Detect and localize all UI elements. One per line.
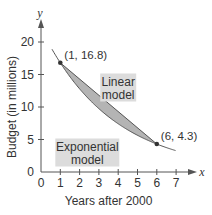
model-label-text: Linear xyxy=(102,75,135,89)
y-tick-label: 20 xyxy=(21,35,35,49)
x-axis-title: Years after 2000 xyxy=(65,194,153,208)
point-label: (1, 16.8) xyxy=(64,49,107,61)
x-tick-label: 1 xyxy=(57,176,64,190)
y-tick-label: 0 xyxy=(27,165,34,179)
y-axis-title: Budget (in millions) xyxy=(5,56,19,158)
point-label: (6, 4.3) xyxy=(161,130,198,142)
x-tick-label: 7 xyxy=(173,176,180,190)
y-tick-label: 10 xyxy=(21,100,35,114)
x-tick-label: 3 xyxy=(96,176,103,190)
model-label-text: model xyxy=(102,88,135,102)
x-tick-label: 4 xyxy=(115,176,122,190)
x-axis-arrow-icon xyxy=(188,169,197,175)
x-tick-label: 2 xyxy=(76,176,83,190)
y-tick-label: 15 xyxy=(21,68,35,82)
data-point xyxy=(155,142,160,147)
x-tick-label: 0 xyxy=(38,176,45,190)
annotations: (1, 16.8)(6, 4.3)LinearmodelExponentialm… xyxy=(55,49,197,167)
chart-container: yx0123456705101520Years after 2000Budget… xyxy=(0,0,212,215)
budget-chart: yx0123456705101520Years after 2000Budget… xyxy=(0,0,212,215)
x-axis-variable: x xyxy=(198,165,205,179)
model-label-text: Exponential xyxy=(56,140,119,154)
data-point xyxy=(58,61,63,66)
x-tick-label: 6 xyxy=(153,176,160,190)
x-tick-label: 5 xyxy=(134,176,141,190)
model-label-text: model xyxy=(71,153,104,167)
y-axis-variable: y xyxy=(36,6,43,20)
y-tick-label: 5 xyxy=(27,133,34,147)
y-axis-arrow-icon xyxy=(38,19,44,28)
